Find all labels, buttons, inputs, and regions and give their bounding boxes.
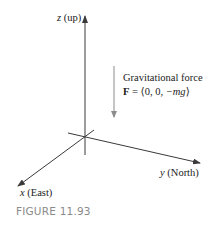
force-equals: = ⟨0, 0, <box>129 86 165 97</box>
y-axis <box>68 133 200 163</box>
y-axis-label: y (North) <box>160 168 199 179</box>
x-axis <box>18 130 94 186</box>
y-axis-variable: y <box>160 167 165 178</box>
z-axis-variable: z <box>57 12 61 23</box>
y-axis-description: (North) <box>167 167 199 178</box>
force-equation: F = ⟨0, 0, −mg⟩ <box>123 87 190 98</box>
figure-canvas: z (up) Gravitational force F = ⟨0, 0, −m… <box>0 0 212 227</box>
force-close-bracket: ⟩ <box>186 86 190 97</box>
x-axis-label: x (East) <box>20 188 52 199</box>
x-axis-description: (East) <box>27 187 52 198</box>
z-axis-description: (up) <box>64 12 82 23</box>
force-z-component: −mg <box>166 86 186 97</box>
z-axis-label: z (up) <box>57 13 81 24</box>
force-title: Gravitational force <box>123 73 203 84</box>
x-axis-variable: x <box>20 187 25 198</box>
figure-caption: FIGURE 11.93 <box>16 205 91 217</box>
